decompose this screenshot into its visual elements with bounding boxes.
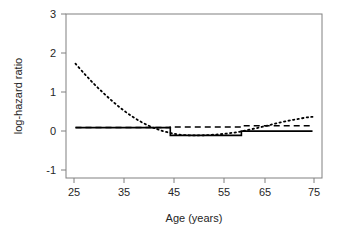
y-tick-label-1: 1 [50,86,56,98]
chart-canvas: 3 2 1 0 -1 25 35 45 55 65 75 Age (years)… [0,0,346,238]
x-axis-ticks [74,178,314,183]
x-tick-label-45: 45 [168,186,180,198]
x-axis-title: Age (years) [166,212,223,224]
series-dotted-line [75,64,312,136]
x-tick-label-55: 55 [218,186,230,198]
x-tick-label-75: 75 [308,186,320,198]
data-series-group [75,64,312,136]
x-tick-label-35: 35 [118,186,130,198]
x-tick-label-65: 65 [259,186,271,198]
y-axis-tick-labels: 3 2 1 0 -1 [46,8,56,176]
y-tick-label-3: 3 [50,8,56,20]
y-axis-title: log-hazard ratio [12,58,24,134]
y-axis-ticks [61,14,66,170]
chart-figure: 3 2 1 0 -1 25 35 45 55 65 75 Age (years)… [0,0,346,238]
y-tick-label-neg1: -1 [46,164,56,176]
plot-frame [66,14,322,178]
x-axis-tick-labels: 25 35 45 55 65 75 [68,186,320,198]
y-tick-label-0: 0 [50,125,56,137]
x-tick-label-25: 25 [68,186,80,198]
series-solid-step-line [75,128,312,136]
y-tick-label-2: 2 [50,47,56,59]
